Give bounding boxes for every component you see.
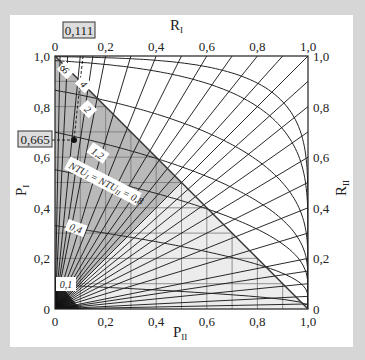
top-tick: 0 xyxy=(52,39,59,54)
top-tick: 0,6 xyxy=(199,39,216,54)
r1-highlight-value: 0,111 xyxy=(65,23,93,38)
x-tick: 0,6 xyxy=(199,314,216,329)
r1-axis-label: RI xyxy=(170,17,183,35)
p2-axis-label: PII xyxy=(173,324,187,342)
top-tick: 0,8 xyxy=(249,39,265,54)
operating-point xyxy=(71,137,77,143)
y-tick: 0,4 xyxy=(34,201,51,216)
right-tick: 1,0 xyxy=(313,49,329,64)
x-tick: 0,4 xyxy=(148,314,165,329)
x-tick: 0,8 xyxy=(249,314,265,329)
right-tick: 0,2 xyxy=(313,251,329,266)
p1-highlight-value: 0,665 xyxy=(20,132,49,147)
y-tick: 0,6 xyxy=(34,150,51,165)
p1-axis-label: PI xyxy=(13,185,31,196)
curve-label-0-1: 0,1 xyxy=(56,277,76,291)
top-tick: 0,2 xyxy=(97,39,113,54)
y-tick: 0,2 xyxy=(34,251,50,266)
x-tick: 1,0 xyxy=(300,314,316,329)
x-tick: 0,2 xyxy=(97,314,113,329)
right-tick: 0,8 xyxy=(313,100,329,115)
r2-axis-label: RII xyxy=(333,180,351,196)
right-tick: 0,6 xyxy=(313,150,330,165)
top-tick: 0,4 xyxy=(148,39,165,54)
y-tick: 1,0 xyxy=(34,49,50,64)
svg-text:0,1: 0,1 xyxy=(60,279,73,290)
y-tick: 0 xyxy=(44,302,51,317)
x-tick: 0 xyxy=(52,314,59,329)
p-ntu-diagram: 0000,20,20,20,20,40,40,40,40,60,60,60,60… xyxy=(0,0,365,360)
y-tick: 0,8 xyxy=(34,100,50,115)
right-tick: 0,4 xyxy=(313,201,330,216)
